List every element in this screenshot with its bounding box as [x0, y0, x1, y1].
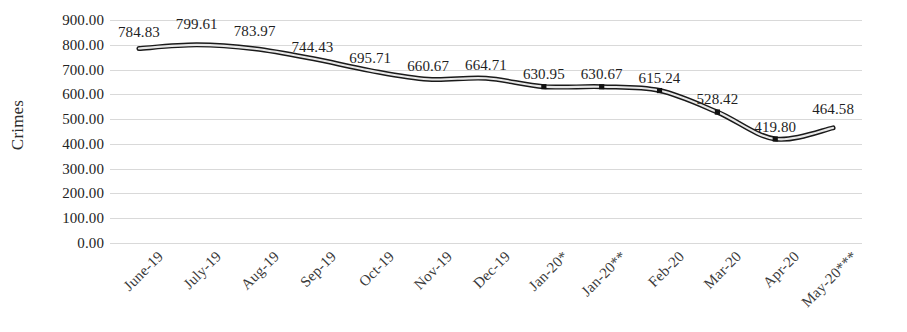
data-label: 744.43 — [292, 39, 334, 56]
data-label: 783.97 — [234, 23, 276, 40]
plot-area: 784.83799.61783.97744.43695.71660.67664.… — [110, 20, 862, 243]
x-axis-tick: Sep-19 — [298, 248, 341, 291]
data-label: 664.71 — [465, 57, 507, 74]
crimes-line-chart: Crimes 900.00800.00700.00600.00500.00400… — [0, 0, 907, 332]
y-axis-tick-labels: 900.00800.00700.00600.00500.00400.00300.… — [28, 20, 104, 243]
gridline — [110, 243, 862, 244]
y-axis-tick: 700.00 — [62, 61, 104, 78]
x-axis-tick: Jan-20* — [525, 248, 572, 295]
data-label: 799.61 — [176, 16, 218, 33]
y-axis-tick: 200.00 — [62, 185, 104, 202]
x-axis-tick: Apr-20 — [760, 248, 803, 291]
y-axis-tick: 400.00 — [62, 135, 104, 152]
x-axis-tick: Oct-19 — [356, 248, 398, 290]
y-axis-tick: 300.00 — [62, 160, 104, 177]
x-axis-tick-labels: June-19July-19Aug-19Sep-19Oct-19Nov-19De… — [110, 248, 862, 332]
y-axis-title-label: Crimes — [8, 100, 28, 150]
data-point-marker — [773, 136, 778, 141]
data-point-marker — [657, 88, 662, 93]
data-label: 419.80 — [754, 119, 796, 136]
x-axis-tick: Aug-19 — [237, 248, 282, 293]
x-axis-tick: July-19 — [180, 248, 225, 293]
data-label: 630.95 — [523, 66, 565, 83]
data-point-marker — [599, 84, 604, 89]
y-axis-tick: 100.00 — [62, 210, 104, 227]
y-axis-tick: 900.00 — [62, 12, 104, 29]
y-axis-tick: 800.00 — [62, 36, 104, 53]
x-axis-tick: Feb-20 — [645, 248, 688, 291]
x-axis-tick: Dec-19 — [470, 248, 514, 292]
x-axis-tick: Mar-20 — [701, 248, 745, 292]
x-axis-tick: June-19 — [120, 248, 167, 295]
y-axis-tick: 0.00 — [77, 235, 104, 252]
x-axis-tick: Jan-20** — [578, 248, 630, 300]
data-point-marker — [541, 84, 546, 89]
y-axis-tick: 500.00 — [62, 111, 104, 128]
data-label: 660.67 — [407, 58, 449, 75]
data-label: 615.24 — [639, 70, 681, 87]
data-label: 528.42 — [696, 91, 738, 108]
series-line — [110, 20, 862, 243]
data-label: 784.83 — [118, 24, 160, 41]
data-label: 464.58 — [812, 101, 854, 118]
data-label: 695.71 — [349, 50, 391, 67]
x-axis-tick: May-20*** — [798, 248, 861, 311]
data-label: 630.67 — [581, 66, 623, 83]
data-point-marker — [715, 109, 720, 114]
x-axis-tick: Nov-19 — [411, 248, 456, 293]
y-axis-tick: 600.00 — [62, 86, 104, 103]
